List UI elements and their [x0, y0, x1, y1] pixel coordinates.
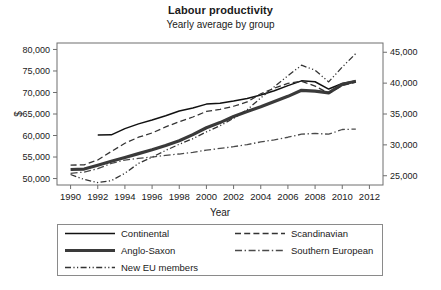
x-axis-tick-label: 2012 — [359, 191, 380, 202]
x-axis-tick-label: 1990 — [60, 191, 81, 202]
legend-item-label: Southern European — [291, 246, 373, 256]
y-axis-tick-label-left: 75,000 — [22, 66, 50, 76]
legend-line-sample — [234, 246, 286, 255]
y-axis-tick-label-right: 30,000 — [390, 140, 418, 150]
legend-item-continental[interactable]: Continental — [64, 229, 234, 239]
y-axis-tick-label-left: 80,000 — [22, 45, 50, 55]
y-axis-tick-label-left: 70,000 — [22, 88, 50, 98]
legend-line-sample — [64, 263, 116, 272]
x-axis-tick-label: 2006 — [277, 191, 298, 202]
y-axis-tick-label-left: 60,000 — [22, 131, 50, 141]
legend-item-new-eu-members[interactable]: New EU members — [64, 263, 234, 273]
x-axis-tick-label: 1994 — [114, 191, 135, 202]
legend-item-southern-european[interactable]: Southern European — [234, 246, 390, 256]
y-axis-tick-label-left: 65,000 — [22, 109, 50, 119]
legend-line-sample — [64, 229, 116, 238]
chart-legend: ContinentalScandinavianAnglo-SaxonSouthe… — [57, 224, 383, 276]
legend-item-label: Continental — [121, 229, 169, 239]
x-axis-tick-label: 2002 — [223, 191, 244, 202]
legend-item-label: Anglo-Saxon — [121, 246, 175, 256]
x-axis-tick-label: 2000 — [196, 191, 217, 202]
y-axis-title: $ — [13, 111, 24, 117]
chart-figure: Labour productivity Yearly average by gr… — [0, 0, 441, 290]
series-line-scandinavian — [71, 81, 356, 165]
x-axis-tick-label: 1998 — [169, 191, 190, 202]
legend-item-scandinavian[interactable]: Scandinavian — [234, 229, 390, 239]
x-axis-tick-label: 2004 — [250, 191, 271, 202]
legend-line-sample — [64, 246, 116, 255]
y-axis-tick-label-left: 55,000 — [22, 152, 50, 162]
y-axis-tick-label-right: 40,000 — [390, 78, 418, 88]
series-line-anglo-saxon — [71, 81, 356, 169]
legend-item-label: New EU members — [121, 263, 198, 273]
x-axis-tick-label: 1996 — [142, 191, 163, 202]
x-axis-title: Year — [210, 207, 231, 218]
x-axis-tick-label: 2010 — [332, 191, 353, 202]
legend-item-anglo-saxon[interactable]: Anglo-Saxon — [64, 246, 234, 256]
y-axis-tick-label-right: 25,000 — [390, 171, 418, 181]
y-axis-tick-label-right: 45,000 — [390, 47, 418, 57]
legend-item-label: Scandinavian — [291, 229, 348, 239]
series-line-southern-european — [71, 129, 356, 173]
y-axis-tick-label-left: 50,000 — [22, 174, 50, 184]
legend-line-sample — [234, 229, 286, 238]
y-axis-tick-label-right: 35,000 — [390, 109, 418, 119]
x-axis-tick-label: 1992 — [87, 191, 108, 202]
x-axis-tick-label: 2008 — [305, 191, 326, 202]
